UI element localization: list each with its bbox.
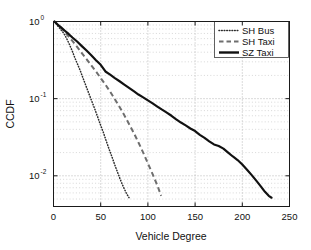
ccdf-chart-figure: Vehicle Degree CCDF SH Bus SH Taxi SZ Ta… [0, 0, 311, 250]
y-tick-label: 10 [29, 170, 40, 181]
legend-label-sh-bus: SH Bus [242, 25, 274, 36]
x-tick-label: 50 [95, 211, 106, 222]
x-tick-label: 200 [234, 211, 250, 222]
y-tick-label-exponent: -2 [41, 168, 47, 175]
y-tick-label: 10 [29, 93, 40, 104]
chart-svg: Vehicle Degree CCDF SH Bus SH Taxi SZ Ta… [0, 0, 311, 250]
y-tick-label: 10 [29, 16, 40, 27]
legend-label-sz-taxi: SZ Taxi [242, 47, 274, 58]
x-tick-label: 250 [282, 211, 298, 222]
legend-label-sh-taxi: SH Taxi [242, 36, 275, 47]
x-tick-label: 0 [51, 211, 56, 222]
legend: SH Bus SH Taxi SZ Taxi [215, 22, 289, 59]
y-tick-label-exponent: 0 [41, 14, 45, 21]
y-axis-label: CCDF [4, 99, 16, 128]
x-axis-label: Vehicle Degree [135, 230, 206, 242]
x-tick-label: 100 [140, 211, 156, 222]
y-tick-label-exponent: -1 [41, 91, 47, 98]
x-tick-label: 150 [187, 211, 203, 222]
